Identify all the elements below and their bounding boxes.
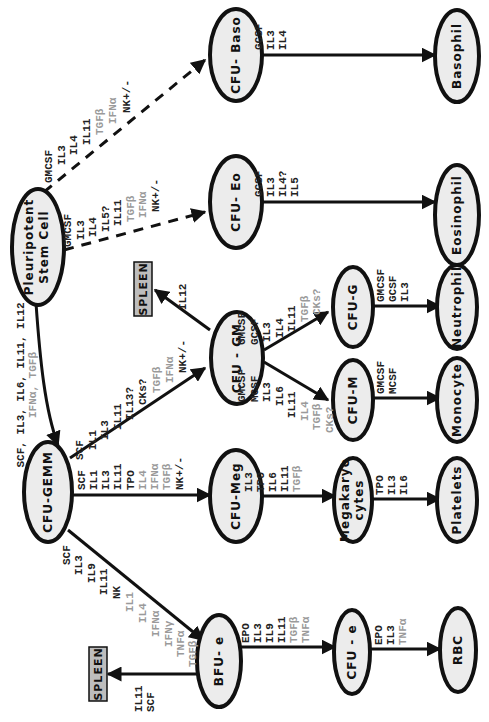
labels-gm-to-cfum: GMCSF MCSF IL3 IL6 IL11 IL4 TGFβ CKs? (236, 369, 336, 433)
svg-text:EPO: EPO (240, 623, 252, 643)
node-megakaryocytes: Megakaryo cytes (334, 458, 372, 542)
svg-text:IL9: IL9 (86, 563, 98, 583)
svg-text:NK+/-: NK+/- (150, 179, 162, 212)
svg-text:SCF: SCF (145, 692, 157, 712)
svg-text:TGFβ: TGFβ (94, 108, 106, 135)
svg-text:TGFβ: TGFβ (311, 403, 323, 430)
svg-text:CFU-Meg: CFU-Meg (229, 462, 243, 529)
labels-eo-to-eosinophil: GCSF IL3 IL4? IL5 (253, 171, 301, 197)
svg-text:IL6: IL6 (267, 472, 279, 492)
svg-text:IL11: IL11 (81, 118, 93, 145)
svg-text:IL4: IL4 (277, 30, 289, 50)
svg-text:TNFα: TNFα (175, 630, 187, 657)
svg-text:IL3: IL3 (99, 420, 111, 440)
svg-text:GCSF: GCSF (253, 171, 265, 197)
edge-stem-to-baso (44, 60, 205, 192)
svg-text:IL11: IL11 (286, 391, 298, 418)
node-cfu-eo: CFU- Eo (210, 156, 262, 248)
svg-text:TNFα: TNFα (397, 618, 409, 645)
svg-text:IL11: IL11 (112, 403, 124, 430)
svg-text:SCF: SCF (76, 470, 88, 490)
labels-gemm-to-meg: SCF IL1 IL3 IL11 TPO IL4 IFNα TGFβ NK+/- (76, 457, 186, 490)
svg-text:IL4: IL4 (68, 135, 80, 155)
svg-text:IL9: IL9 (264, 623, 276, 643)
labels-baso-to-basophil: GCSF IL3 IL4 (253, 24, 289, 50)
node-cfu-g: CFU-G (333, 267, 373, 347)
svg-text:TGFβ: TGFβ (288, 616, 300, 643)
svg-text:CFU-M: CFU-M (346, 376, 360, 425)
svg-text:IL4?: IL4? (277, 171, 289, 197)
svg-text:MCSF: MCSF (249, 376, 261, 402)
svg-text:TGFβ: TGFβ (187, 640, 199, 667)
labels-stem-to-eo: GMCSF IL3 IL4 IL5? IL11 TGFβ IFNα NK+/- (62, 179, 162, 247)
labels-bfue-to-cfue: EPO IL3 IL9 IL11 TGFβ TNFα (240, 616, 312, 643)
svg-text:Monocyte: Monocyte (450, 363, 464, 437)
svg-text:IL11: IL11 (286, 305, 298, 332)
svg-text:GCSF: GCSF (253, 24, 265, 50)
node-rbc: RBC (440, 608, 476, 692)
svg-text:Basophil: Basophil (450, 23, 464, 89)
labels-cfue-to-rbc: EPO IL3 TNFα (373, 618, 409, 645)
svg-text:IL4: IL4 (274, 318, 286, 338)
svg-text:GMCSF: GMCSF (43, 150, 55, 183)
node-cfu-gemm: CFU-GEMM (24, 442, 72, 542)
svg-text:NK: NK (111, 585, 123, 599)
nodes: Pleuripotent Stem Cell CFU-GEMM CFU- Bas… (12, 9, 479, 707)
svg-text:IL3: IL3 (386, 475, 398, 495)
node-monocyte: Monocyte (437, 358, 477, 442)
svg-text:CFU-GEMM: CFU-GEMM (41, 451, 55, 533)
edge-gemm-to-bfue (68, 530, 203, 640)
svg-text:TGFβ: TGFβ (299, 295, 311, 322)
node-cfu-meg: CFU-Meg (210, 450, 262, 542)
node-cfu-e: CFU - e (334, 610, 370, 694)
node-basophil: Basophil (435, 10, 479, 102)
svg-text:IL11: IL11 (112, 463, 124, 490)
svg-text:Pleuripotent: Pleuripotent (22, 199, 36, 296)
labels-gemm-to-bfue: SCF IL3 IL9 IL11 NK IL1 IL4 IFNα IFNγ TN… (61, 545, 199, 667)
svg-text:IL4: IL4 (137, 603, 149, 623)
svg-text:RBC: RBC (451, 635, 465, 665)
node-bfu-e: BFU- e (197, 615, 241, 707)
svg-text:IL3: IL3 (100, 470, 112, 490)
svg-text:IL6: IL6 (398, 475, 410, 495)
svg-text:TGFβ: TGFβ (125, 195, 137, 222)
svg-text:IL5?: IL5? (100, 206, 112, 232)
svg-text:CFU- Baso: CFU- Baso (229, 16, 243, 94)
svg-text:SPLEEN: SPLEEN (92, 647, 105, 700)
svg-text:IFNα: IFNα (137, 191, 149, 218)
svg-text:CKs?: CKs? (137, 379, 149, 405)
svg-text:Megakaryo: Megakaryo (338, 458, 352, 542)
svg-text:IL3: IL3 (252, 623, 264, 643)
svg-text:IL11: IL11 (133, 685, 145, 712)
svg-text:IL3: IL3 (265, 30, 277, 50)
svg-text:IL4: IL4 (137, 470, 149, 490)
labels-megakaryocytes-to-platelets: TPO IL3 IL6 (374, 475, 410, 495)
svg-text:IFNα: IFNα (150, 610, 162, 637)
svg-text:SCF: SCF (61, 545, 73, 565)
node-cfu-m: CFU-M (333, 360, 373, 440)
node-cfu-baso: CFU- Baso (210, 9, 262, 101)
svg-text:IL11: IL11 (112, 199, 124, 226)
labels-bfue-to-spleen: IL11 SCF (133, 685, 157, 712)
svg-text:Neutrophil: Neutrophil (450, 266, 464, 348)
svg-text:GMCSF: GMCSF (236, 312, 248, 345)
spleen-box-gm: SPLEEN (134, 262, 152, 316)
svg-text:IL1: IL1 (124, 592, 136, 612)
svg-text:NK+/-: NK+/- (121, 80, 133, 113)
svg-text:SCF, IL3, IL6, IL11, IL12: SCF, IL3, IL6, IL11, IL12 (15, 302, 27, 467)
svg-text:TPO: TPO (125, 470, 137, 490)
svg-text:IL5: IL5 (289, 177, 301, 197)
svg-text:GMCSF: GMCSF (62, 214, 74, 247)
svg-text:CFU- Eo: CFU- Eo (229, 172, 243, 231)
svg-text:IL12: IL12 (177, 284, 189, 310)
node-eosinophil: Eosinophil (435, 165, 479, 265)
svg-text:IL6: IL6 (274, 386, 286, 406)
svg-text:CKs?: CKs? (311, 289, 323, 315)
svg-text:IL1: IL1 (88, 470, 100, 490)
labels-cfum-to-monocyte: GMCSF MCSF (375, 361, 399, 394)
svg-text:IL11: IL11 (279, 465, 291, 492)
labels-gemm-to-gm: SCF IL1 IL3 IL11 IL13? CKs? TGFβ IFNα NK… (74, 340, 189, 460)
svg-text:GCSF: GCSF (387, 276, 399, 302)
svg-text:IFNα, TGFβ: IFNα, TGFβ (27, 352, 39, 418)
svg-text:IFNα: IFNα (164, 356, 176, 383)
